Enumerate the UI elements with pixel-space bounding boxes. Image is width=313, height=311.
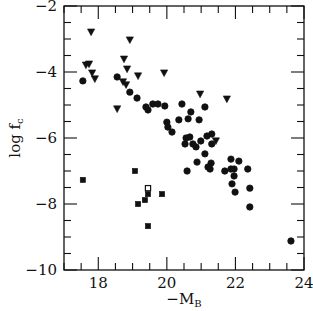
circle-marker bbox=[247, 185, 253, 191]
square-marker bbox=[80, 177, 85, 182]
circle-marker bbox=[162, 103, 168, 109]
circle-marker bbox=[155, 101, 161, 107]
x-axis-label: −MB bbox=[166, 290, 201, 309]
square-marker bbox=[135, 201, 140, 206]
circle-marker bbox=[229, 181, 235, 187]
circle-marker bbox=[182, 141, 188, 147]
triangle-marker bbox=[87, 29, 94, 36]
circle-marker bbox=[202, 104, 208, 110]
circle-marker bbox=[231, 166, 237, 172]
y-tick-label: −6 bbox=[35, 129, 57, 147]
y-axis-label-sub: c bbox=[14, 118, 25, 124]
circle-marker bbox=[179, 101, 185, 107]
circle-marker bbox=[231, 173, 237, 179]
square-marker bbox=[145, 224, 150, 229]
circle-marker bbox=[193, 144, 199, 150]
x-axis-label-sub: B bbox=[194, 298, 201, 309]
circle-marker bbox=[176, 117, 182, 123]
circle-marker bbox=[194, 159, 200, 165]
circle-marker bbox=[187, 134, 193, 140]
circle-marker bbox=[134, 95, 140, 101]
data-points bbox=[80, 29, 295, 244]
tick-labels: 18202224−2−4−6−8−10 bbox=[25, 0, 313, 292]
square-marker bbox=[145, 192, 150, 197]
circle-marker bbox=[228, 156, 234, 162]
open-square-marker bbox=[145, 186, 150, 191]
circle-marker bbox=[207, 166, 213, 172]
y-tick-label: −4 bbox=[35, 63, 57, 81]
circle-marker bbox=[288, 238, 294, 244]
square-marker bbox=[142, 197, 147, 202]
square-marker bbox=[132, 168, 137, 173]
circle-marker bbox=[188, 109, 194, 115]
x-tick-label: 24 bbox=[294, 274, 313, 292]
triangle-marker bbox=[134, 73, 141, 80]
x-tick-label: 22 bbox=[226, 274, 245, 292]
triangle-marker bbox=[123, 66, 130, 73]
circle-marker bbox=[198, 138, 204, 144]
circle-marker bbox=[169, 129, 175, 135]
circle-marker bbox=[222, 168, 228, 174]
circle-marker bbox=[202, 151, 208, 157]
triangle-marker bbox=[122, 82, 129, 89]
square-marker bbox=[159, 192, 164, 197]
x-axis-label-main: −M bbox=[166, 290, 194, 308]
circle-marker bbox=[232, 189, 238, 195]
y-tick-label: −2 bbox=[35, 0, 57, 15]
triangle-marker bbox=[161, 70, 168, 77]
scatter-chart: 18202224−2−4−6−8−10 −MB log fc bbox=[0, 0, 313, 311]
y-tick-label: −10 bbox=[25, 261, 57, 279]
triangle-marker bbox=[120, 56, 127, 63]
y-axis-label: log fc bbox=[6, 118, 25, 158]
circle-marker bbox=[209, 131, 215, 137]
triangle-marker bbox=[197, 91, 204, 98]
triangle-marker bbox=[126, 37, 133, 44]
circle-marker bbox=[185, 116, 191, 122]
circle-marker bbox=[127, 89, 133, 95]
circle-marker bbox=[184, 168, 190, 174]
circle-marker bbox=[245, 166, 251, 172]
circle-marker bbox=[80, 78, 86, 84]
circle-marker bbox=[196, 117, 202, 123]
circle-marker bbox=[247, 204, 253, 210]
y-tick-label: −8 bbox=[35, 195, 57, 213]
y-axis-label-main: log f bbox=[6, 122, 24, 157]
triangle-marker bbox=[114, 106, 121, 113]
circle-marker bbox=[145, 107, 151, 113]
triangle-marker bbox=[91, 76, 98, 83]
x-tick-label: 18 bbox=[89, 274, 108, 292]
triangle-marker bbox=[223, 96, 230, 103]
circle-marker bbox=[236, 158, 242, 164]
